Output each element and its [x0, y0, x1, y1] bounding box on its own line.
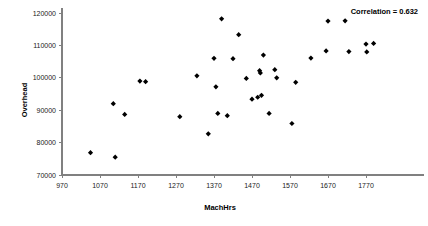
data-point	[272, 67, 277, 72]
data-point	[325, 19, 330, 24]
y-tick-label: 70000	[37, 172, 57, 179]
data-point	[113, 155, 118, 160]
axis-tick-marks	[59, 13, 366, 178]
data-point	[324, 48, 329, 53]
x-tick-label: 1070	[92, 182, 108, 189]
x-tick-label: 1770	[358, 182, 374, 189]
data-point	[293, 80, 298, 85]
plot-canvas: 700008000090000100000110000120000 970107…	[0, 0, 428, 226]
x-tick-label: 1170	[130, 182, 145, 189]
data-point	[143, 79, 148, 84]
data-point	[122, 112, 127, 117]
data-point	[213, 84, 218, 89]
data-point	[249, 97, 254, 102]
data-point	[219, 16, 224, 21]
data-point	[274, 75, 279, 80]
data-point	[244, 76, 249, 81]
y-tick-label: 80000	[37, 139, 57, 146]
data-point	[308, 55, 313, 60]
data-point	[194, 73, 199, 78]
data-point	[236, 32, 241, 37]
data-point	[137, 78, 142, 83]
data-point	[371, 41, 376, 46]
data-point	[88, 150, 93, 155]
x-axis-title: MachHrs	[204, 203, 236, 212]
data-point-markers	[88, 16, 376, 160]
data-point	[363, 42, 368, 47]
data-point	[111, 101, 116, 106]
data-point	[230, 56, 235, 61]
y-tick-label: 90000	[37, 107, 57, 114]
x-tick-label: 970	[56, 182, 68, 189]
x-tick-label: 1670	[320, 182, 336, 189]
data-point	[267, 111, 272, 116]
data-point	[261, 53, 266, 58]
data-point	[211, 56, 216, 61]
data-point	[177, 114, 182, 119]
x-tick-label: 1470	[244, 182, 260, 189]
y-tick-label: 120000	[33, 10, 56, 17]
correlation-annotation: Correlation = 0.632	[351, 7, 418, 16]
x-tick-label: 1270	[168, 182, 184, 189]
x-tick-label: 1370	[206, 182, 222, 189]
y-axis-title: Overhead	[20, 82, 29, 117]
scatter-chart: 700008000090000100000110000120000 970107…	[0, 0, 428, 226]
y-tick-label: 110000	[33, 42, 56, 49]
data-point	[289, 121, 294, 126]
data-point	[215, 111, 220, 116]
x-axis-tick-labels: 97010701170127013701470157016701770	[56, 182, 374, 189]
data-point	[364, 49, 369, 54]
y-tick-label: 100000	[33, 74, 56, 81]
data-point	[346, 49, 351, 54]
data-point	[206, 131, 211, 136]
y-axis-tick-labels: 700008000090000100000110000120000	[33, 10, 56, 179]
x-tick-label: 1570	[282, 182, 298, 189]
axis-lines	[62, 8, 424, 175]
data-point	[343, 18, 348, 23]
data-point	[225, 113, 230, 118]
